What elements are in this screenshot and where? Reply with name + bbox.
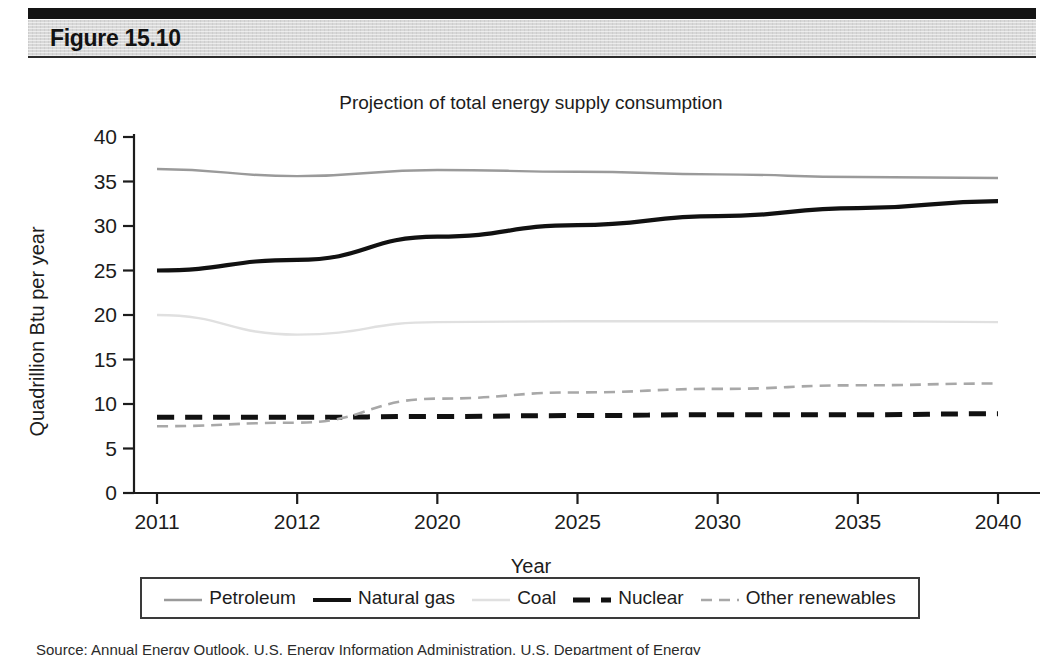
legend-item[interactable]: Coal bbox=[472, 587, 556, 609]
x-tick-label: 2030 bbox=[673, 511, 763, 532]
x-tick-label: 2040 bbox=[953, 511, 1043, 532]
chart-legend: PetroleumNatural gasCoalNuclearOther ren… bbox=[140, 577, 920, 619]
legend-swatch-icon bbox=[573, 592, 611, 604]
plot-svg bbox=[0, 70, 1062, 540]
legend-item[interactable]: Petroleum bbox=[164, 587, 296, 609]
legend-label: Natural gas bbox=[358, 587, 455, 609]
legend-swatch-icon bbox=[313, 592, 351, 604]
y-tick-label: 25 bbox=[59, 260, 117, 281]
y-tick-label: 0 bbox=[59, 482, 117, 503]
legend-label: Coal bbox=[517, 587, 556, 609]
y-tick-label: 10 bbox=[59, 393, 117, 414]
y-tick-label: 30 bbox=[59, 215, 117, 236]
legend-item[interactable]: Other renewables bbox=[701, 587, 896, 609]
legend-swatch-icon bbox=[472, 592, 510, 604]
chart-figure: Projection of total energy supply consum… bbox=[0, 70, 1062, 635]
legend-item[interactable]: Nuclear bbox=[573, 587, 683, 609]
legend-label: Nuclear bbox=[618, 587, 683, 609]
x-tick-label: 2012 bbox=[252, 511, 342, 532]
x-tick-label: 2035 bbox=[813, 511, 903, 532]
x-tick-label: 2020 bbox=[392, 511, 482, 532]
x-axis-label: Year bbox=[0, 555, 1062, 578]
series-line bbox=[157, 201, 998, 270]
y-tick-label: 20 bbox=[59, 304, 117, 325]
legend-swatch-icon bbox=[164, 592, 202, 604]
figure-caption: Source: Annual Energy Outlook, U.S. Ener… bbox=[36, 641, 1036, 655]
legend-item[interactable]: Natural gas bbox=[313, 587, 455, 609]
y-tick-label: 40 bbox=[59, 126, 117, 147]
figure-label: Figure 15.10 bbox=[50, 25, 181, 52]
legend-label: Other renewables bbox=[746, 587, 896, 609]
legend-label: Petroleum bbox=[209, 587, 296, 609]
series-line bbox=[157, 315, 998, 335]
x-tick-label: 2025 bbox=[533, 511, 623, 532]
series-line bbox=[157, 414, 998, 418]
series-line bbox=[157, 169, 998, 178]
x-tick-label: 2011 bbox=[112, 511, 202, 532]
figure-header: Figure 15.10 bbox=[28, 8, 1036, 60]
y-tick-label: 15 bbox=[59, 349, 117, 370]
header-rule bbox=[28, 8, 1036, 19]
plot-area: Quadrillion Btu per year 051015202530354… bbox=[0, 70, 1062, 540]
y-tick-label: 5 bbox=[59, 438, 117, 459]
legend-swatch-icon bbox=[701, 592, 739, 604]
y-tick-label: 35 bbox=[59, 171, 117, 192]
